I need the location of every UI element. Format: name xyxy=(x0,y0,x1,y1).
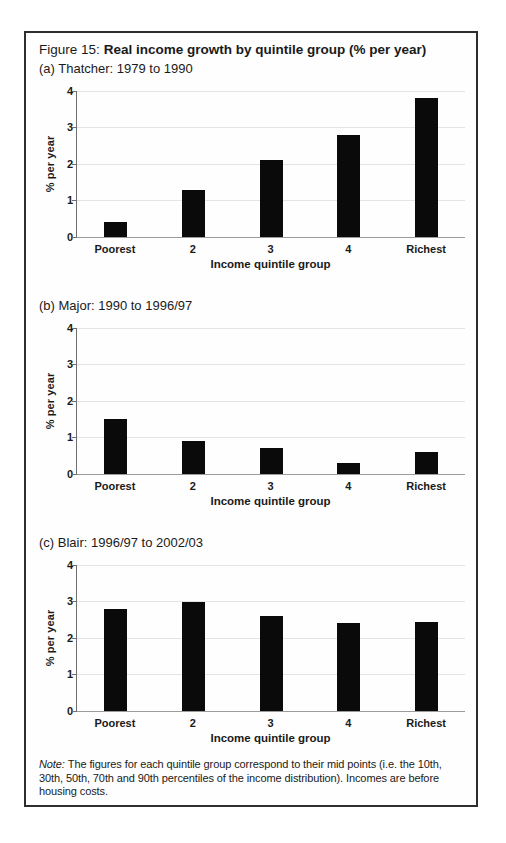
x-tick-label: Poorest xyxy=(76,242,154,256)
plot-column: Poorest234Richest Income quintile group xyxy=(76,328,465,509)
bar-poorest xyxy=(104,609,127,711)
bar-4 xyxy=(337,135,360,237)
bar-2 xyxy=(182,441,205,474)
plot-column: Poorest234Richest Income quintile group xyxy=(76,565,465,746)
x-tick-label: 4 xyxy=(309,716,387,730)
x-tick-label: 2 xyxy=(154,716,232,730)
chart-a-y-axis: % per year xyxy=(39,91,61,237)
gridline xyxy=(77,91,465,92)
x-axis-title: Income quintile group xyxy=(76,731,465,746)
y-tick-mark xyxy=(72,127,77,128)
x-tick-label: Poorest xyxy=(76,479,154,493)
note-label: Note: xyxy=(39,758,65,770)
bar-richest xyxy=(415,622,438,711)
bar-3 xyxy=(260,448,283,474)
bar-3 xyxy=(260,160,283,237)
chart-b-subtitle: (b) Major: 1990 to 1996/97 xyxy=(39,298,464,314)
x-tick-label: 4 xyxy=(309,242,387,256)
gridline xyxy=(77,565,465,566)
x-axis-title: Income quintile group xyxy=(76,494,465,509)
plot-area xyxy=(76,91,465,238)
bar-3 xyxy=(260,616,283,711)
bar-poorest xyxy=(104,222,127,237)
y-tick-mark xyxy=(72,200,77,201)
x-tick-label: 3 xyxy=(232,479,310,493)
y-axis-title: % per year xyxy=(44,373,56,430)
x-axis-labels: Poorest234Richest xyxy=(76,479,465,493)
bar-richest xyxy=(415,98,438,237)
x-tick-label: 2 xyxy=(154,242,232,256)
bar-richest xyxy=(415,452,438,474)
figure-title-text: Real income growth by quintile group (% … xyxy=(104,42,427,57)
x-tick-label: Poorest xyxy=(76,716,154,730)
y-tick-mark xyxy=(72,565,77,566)
y-tick-mark xyxy=(72,401,77,402)
plot-column: Poorest234Richest Income quintile group xyxy=(76,91,465,272)
gridline xyxy=(77,601,465,602)
note: Note:The figures for each quintile group… xyxy=(39,758,464,799)
chart-a: % per year 01234 Poorest234Richest Incom… xyxy=(39,91,464,272)
figure-box: Figure 15:Real income growth by quintile… xyxy=(24,31,478,807)
gridline xyxy=(77,437,465,438)
gridline xyxy=(77,364,465,365)
y-tick-mark xyxy=(72,711,77,712)
y-tick-mark xyxy=(72,91,77,92)
y-axis-title: % per year xyxy=(44,610,56,667)
page: Figure 15:Real income growth by quintile… xyxy=(0,0,506,843)
y-tick-mark xyxy=(72,237,77,238)
chart-c-subtitle: (c) Blair: 1996/97 to 2002/03 xyxy=(39,535,464,551)
bar-poorest xyxy=(104,419,127,474)
chart-c: % per year 01234 Poorest234Richest Incom… xyxy=(39,565,464,746)
plot-area xyxy=(76,565,465,712)
y-tick-mark xyxy=(72,328,77,329)
x-axis-labels: Poorest234Richest xyxy=(76,242,465,256)
note-text: The figures for each quintile group corr… xyxy=(39,758,442,797)
y-tick-mark xyxy=(72,364,77,365)
x-tick-label: Richest xyxy=(387,716,465,730)
bar-4 xyxy=(337,623,360,711)
x-tick-label: 4 xyxy=(309,479,387,493)
chart-b: % per year 01234 Poorest234Richest Incom… xyxy=(39,328,464,509)
y-tick-mark xyxy=(72,437,77,438)
figure-title: Figure 15:Real income growth by quintile… xyxy=(39,41,464,58)
bar-2 xyxy=(182,602,205,712)
y-axis-title: % per year xyxy=(44,136,56,193)
gridline xyxy=(77,401,465,402)
y-tick-mark xyxy=(72,164,77,165)
chart-b-y-axis: % per year xyxy=(39,328,61,474)
plot-area xyxy=(76,328,465,475)
figure-number: Figure 15: xyxy=(39,42,100,57)
chart-c-y-axis: % per year xyxy=(39,565,61,711)
x-tick-label: 3 xyxy=(232,716,310,730)
x-tick-label: 3 xyxy=(232,242,310,256)
y-tick-mark xyxy=(72,474,77,475)
x-axis-title: Income quintile group xyxy=(76,257,465,272)
x-tick-label: Richest xyxy=(387,479,465,493)
y-tick-mark xyxy=(72,638,77,639)
x-axis-labels: Poorest234Richest xyxy=(76,716,465,730)
y-tick-mark xyxy=(72,674,77,675)
chart-a-subtitle: (a) Thatcher: 1979 to 1990 xyxy=(39,61,464,77)
y-tick-mark xyxy=(72,601,77,602)
x-tick-label: 2 xyxy=(154,479,232,493)
gridline xyxy=(77,328,465,329)
bar-2 xyxy=(182,190,205,237)
gridline xyxy=(77,127,465,128)
bar-4 xyxy=(337,463,360,474)
x-tick-label: Richest xyxy=(387,242,465,256)
